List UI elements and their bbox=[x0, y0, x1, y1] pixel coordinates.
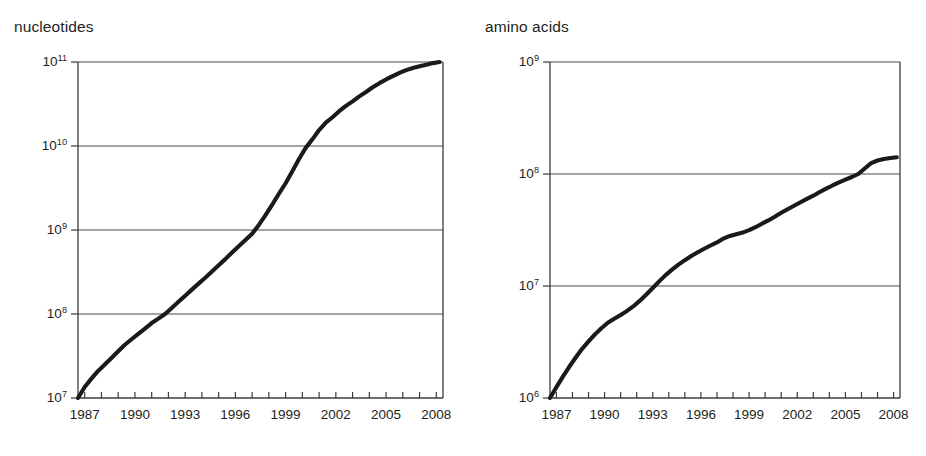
data-series-line bbox=[550, 157, 897, 398]
y-axis-tick-label: 108 bbox=[519, 167, 539, 181]
x-axis-tick-label: 2008 bbox=[414, 408, 458, 422]
x-axis-tick-label: 1993 bbox=[163, 408, 207, 422]
y-axis-tick-label: 108 bbox=[47, 307, 67, 321]
chart-panel-nucleotides: nucleotides 1071081091010101119871990199… bbox=[0, 0, 463, 456]
x-axis-tick-label: 1990 bbox=[583, 408, 627, 422]
y-axis-tick-label: 1010 bbox=[42, 139, 67, 153]
y-axis-tick-label: 109 bbox=[519, 55, 539, 69]
x-axis-tick-label: 1996 bbox=[213, 408, 257, 422]
y-axis-tick-label: 107 bbox=[519, 279, 539, 293]
x-axis-tick-label: 1999 bbox=[264, 408, 308, 422]
x-axis-tick-label: 1996 bbox=[679, 408, 723, 422]
y-axis-tick-label: 106 bbox=[519, 391, 539, 405]
x-axis-tick-label: 2002 bbox=[314, 408, 358, 422]
x-axis-tick-label: 1987 bbox=[534, 408, 578, 422]
y-axis-tick-label: 107 bbox=[47, 391, 67, 405]
chart-panel-amino-acids: amino acids 1061071081091987199019931996… bbox=[463, 0, 926, 456]
x-axis-tick-label: 2008 bbox=[872, 408, 916, 422]
y-axis-tick-label: 109 bbox=[47, 223, 67, 237]
x-axis-tick-label: 2002 bbox=[775, 408, 819, 422]
x-axis-tick-label: 2005 bbox=[364, 408, 408, 422]
plot-area-nucleotides bbox=[0, 0, 463, 456]
x-axis-tick-label: 1993 bbox=[631, 408, 675, 422]
x-axis-tick-label: 1999 bbox=[727, 408, 771, 422]
x-axis-tick-label: 1987 bbox=[63, 408, 107, 422]
x-axis-tick-label: 1990 bbox=[113, 408, 157, 422]
x-axis-tick-label: 2005 bbox=[823, 408, 867, 422]
y-axis-tick-label: 1011 bbox=[42, 55, 67, 69]
figure-root: nucleotides 1071081091010101119871990199… bbox=[0, 0, 926, 456]
